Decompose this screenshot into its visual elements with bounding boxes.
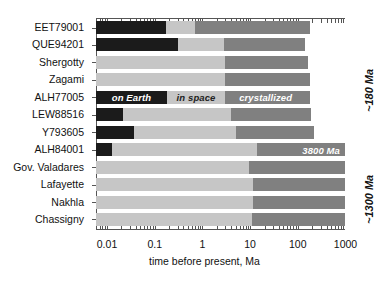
value-axis-label: 1000 bbox=[334, 238, 357, 250]
bar-row bbox=[96, 178, 345, 191]
bar-segment-in-space bbox=[96, 178, 253, 191]
bar-segment-crystallized bbox=[252, 213, 345, 226]
bar-segment-in-space bbox=[96, 196, 253, 209]
bar-segment-on-earth bbox=[96, 143, 112, 156]
category-label: Zagami bbox=[49, 73, 84, 86]
meteorite-exposure-age-chart: EET79001QUE94201ShergottyZagamiALH77005L… bbox=[0, 0, 385, 284]
annotation-180-ma: ~180 Ma bbox=[363, 69, 375, 112]
bar-row bbox=[96, 108, 345, 121]
bar-segment-in-space bbox=[96, 161, 249, 174]
category-label: ALH84001 bbox=[34, 143, 84, 156]
bar-row bbox=[96, 21, 345, 34]
category-label: Gov. Valadares bbox=[13, 161, 84, 174]
bar-segment-in-space bbox=[112, 143, 257, 156]
value-axis-label: 0.1 bbox=[147, 238, 162, 250]
bar-segment-crystallized bbox=[253, 178, 345, 191]
category-label: Lafayette bbox=[41, 178, 84, 191]
bar-segment-on-earth bbox=[96, 126, 134, 139]
bar-segment-in-space bbox=[96, 56, 225, 69]
bar-row: 3800 Ma bbox=[96, 143, 345, 156]
bar-segment-on-earth bbox=[96, 108, 123, 121]
bar-segment-crystallized bbox=[225, 56, 309, 69]
bar-segment-crystallized bbox=[195, 21, 310, 34]
category-label: ALH77005 bbox=[34, 91, 84, 104]
bar-row bbox=[96, 73, 345, 86]
bar-segment-in-space bbox=[96, 213, 252, 226]
axis-title-x-text: time before present, Ma bbox=[149, 255, 260, 267]
category-label: Shergotty bbox=[39, 56, 84, 69]
value-axis-label: 1 bbox=[199, 238, 205, 250]
bar-segment-crystallized: crystallized bbox=[225, 91, 310, 104]
bar-segment-in-space bbox=[166, 21, 195, 34]
bar-segment-crystallized bbox=[225, 73, 311, 86]
bar-segment-crystallized bbox=[253, 196, 345, 209]
bar-row: crystallizedin spaceon Earth bbox=[96, 91, 345, 104]
plot-area: crystallizedin spaceon Earth3800 Ma bbox=[96, 18, 345, 230]
bar-segment-crystallized bbox=[224, 38, 305, 51]
category-label: LEW88516 bbox=[32, 108, 84, 121]
category-label: Nakhla bbox=[51, 196, 84, 209]
bar-segment-in-space: in space bbox=[167, 91, 225, 104]
data-label: 3800 Ma bbox=[302, 144, 340, 155]
bar-segment-in-space bbox=[178, 38, 224, 51]
bar-segment-on-earth bbox=[96, 38, 178, 51]
category-label: Chassigny bbox=[35, 213, 84, 226]
bar-segment-in-space bbox=[134, 126, 236, 139]
axis-line-top bbox=[96, 18, 345, 19]
bar-segment-crystallized bbox=[231, 108, 311, 121]
bar-row bbox=[96, 213, 345, 226]
category-label: QUE94201 bbox=[32, 38, 84, 51]
legend-label-crystallized: crystallized bbox=[239, 92, 292, 103]
bar-row bbox=[96, 196, 345, 209]
legend-label-on-earth: on Earth bbox=[112, 92, 151, 103]
bar-segment-on-earth bbox=[96, 21, 166, 34]
axis-line-bottom bbox=[96, 229, 345, 230]
bar-segment-on-earth: on Earth bbox=[96, 91, 167, 104]
bar-row bbox=[96, 161, 345, 174]
bar-segment-crystallized: 3800 Ma bbox=[257, 143, 345, 156]
value-axis-label: 100 bbox=[289, 238, 307, 250]
bar-segment-crystallized bbox=[249, 161, 345, 174]
category-label: EET79001 bbox=[34, 21, 84, 34]
legend-label-in-space: in space bbox=[177, 92, 216, 103]
bar-row bbox=[96, 126, 345, 139]
bar-row bbox=[96, 38, 345, 51]
category-label: Y793605 bbox=[42, 126, 84, 139]
bar-segment-in-space bbox=[96, 73, 225, 86]
bar-segment-in-space bbox=[123, 108, 231, 121]
bar-row bbox=[96, 56, 345, 69]
value-axis-label: 10 bbox=[244, 238, 256, 250]
axis-title-x: time before present, Ma bbox=[0, 255, 385, 267]
value-axis-label: 0.01 bbox=[97, 238, 117, 250]
annotation-1300-ma: ~1300 Ma bbox=[363, 175, 375, 224]
bar-segment-crystallized bbox=[236, 126, 314, 139]
